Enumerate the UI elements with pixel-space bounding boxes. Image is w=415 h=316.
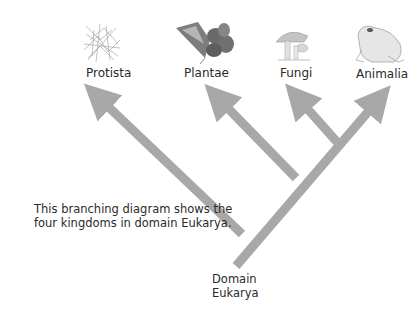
branch-plantae <box>217 97 296 178</box>
mushroom-icon <box>276 32 310 60</box>
root-label-line-1: Domain <box>212 272 259 286</box>
trunk-branch-animalia <box>236 99 379 266</box>
branching-tree <box>0 0 415 316</box>
root-label: Domain Eukarya <box>212 272 259 300</box>
kingdom-label-fungi: Fungi <box>280 66 312 80</box>
cladogram-figure: Protista Plantae Fungi Animalia This bra… <box>0 0 415 316</box>
flower-plant-icon <box>176 22 234 64</box>
kingdom-label-protista: Protista <box>86 66 131 80</box>
root-label-line-2: Eukarya <box>212 286 259 300</box>
kingdom-label-plantae: Plantae <box>184 66 229 80</box>
diagram-caption: This branching diagram shows the four ki… <box>34 202 232 230</box>
caption-line-1: This branching diagram shows the <box>34 202 232 216</box>
branch-fungi <box>297 97 337 142</box>
caption-line-2: four kingdoms in domain Eukarya. <box>34 216 232 230</box>
protist-network-icon <box>84 24 120 62</box>
kingdom-label-animalia: Animalia <box>356 67 408 81</box>
frog-icon <box>356 26 404 62</box>
